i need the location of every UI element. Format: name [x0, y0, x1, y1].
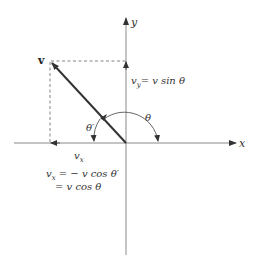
- svg-text:vy= v sin θ: vy= v sin θ: [131, 75, 185, 89]
- theta-prime-arc: [94, 119, 100, 141]
- x-axis-label: x: [239, 137, 246, 150]
- y-axis-label: y: [130, 16, 138, 29]
- svg-text:vx = − v cos θ′: vx = − v cos θ′: [46, 168, 120, 182]
- vx-label: vx: [74, 150, 84, 164]
- vy-equation: vy= v sin θ: [131, 75, 185, 89]
- vx-equation: vx = − v cos θ′ = v cos θ: [46, 168, 120, 192]
- svg-text:vx: vx: [74, 150, 84, 164]
- svg-text:= v cos θ: = v cos θ: [55, 181, 101, 192]
- theta-label: θ: [145, 112, 151, 123]
- theta-prime-label: θ′: [86, 122, 95, 133]
- vector-label: v: [37, 54, 45, 67]
- vector-components-diagram: v y x θ θ′ vy= v sin θ vx vx = − v cos θ…: [0, 0, 258, 269]
